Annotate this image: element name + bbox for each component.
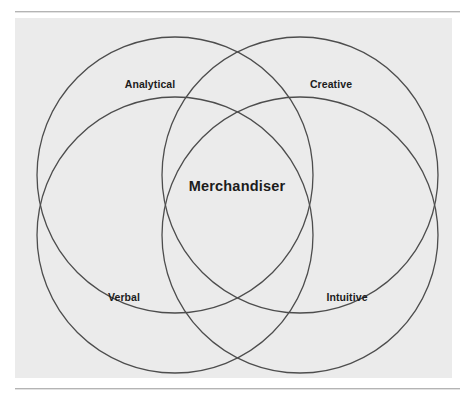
venn-label-analytical: Analytical <box>125 78 176 90</box>
venn-circle-intuitive <box>162 97 438 373</box>
venn-label-intuitive: Intuitive <box>326 291 367 303</box>
venn-label-verbal: Verbal <box>108 291 140 303</box>
venn-label-center-merchandiser: Merchandiser <box>189 178 286 194</box>
venn-circle-verbal <box>37 97 313 373</box>
bottom-divider-rule <box>15 388 460 389</box>
venn-circle-creative <box>162 37 438 313</box>
venn-diagram-figure: Analytical Creative Verbal Intuitive Mer… <box>0 0 471 400</box>
venn-label-creative: Creative <box>310 78 352 90</box>
venn-circles-svg <box>0 0 471 400</box>
